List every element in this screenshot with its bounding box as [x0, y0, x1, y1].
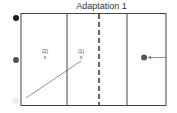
player-dot-black	[13, 15, 19, 21]
marker-1-x-icon: x	[74, 54, 88, 60]
pass-line	[26, 61, 81, 98]
marker-2-x-icon: x	[38, 54, 52, 60]
player-dot-right	[141, 55, 147, 61]
court-diagram	[0, 0, 177, 113]
player-dot-light	[13, 98, 19, 104]
player-dot-grey	[13, 57, 19, 63]
arrow-head-icon	[148, 56, 151, 59]
